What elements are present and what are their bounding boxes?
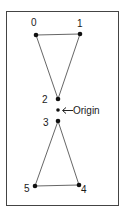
point-label-4: 4 xyxy=(81,184,87,195)
edge-0-1 xyxy=(36,34,80,35)
edge-3-4 xyxy=(58,121,79,185)
point-label-1: 1 xyxy=(77,18,83,29)
point-label-0: 0 xyxy=(31,17,37,28)
edge-2-0 xyxy=(36,35,58,99)
point-label-5: 5 xyxy=(24,183,30,194)
point-5 xyxy=(33,184,38,189)
origin-label: Origin xyxy=(73,105,100,116)
edge-4-5 xyxy=(35,185,79,186)
point-label-2: 2 xyxy=(42,94,48,105)
point-1 xyxy=(78,32,83,37)
point-0 xyxy=(34,33,39,38)
point-2 xyxy=(56,97,61,102)
arrow-left-icon xyxy=(63,108,74,114)
origin-point xyxy=(56,108,60,112)
point-label-3: 3 xyxy=(43,117,49,128)
triangle-diagram: 0 1 2 3 4 5 Origin xyxy=(0,0,125,214)
edge-5-3 xyxy=(35,121,58,186)
diagram-frame xyxy=(7,12,119,206)
point-3 xyxy=(56,119,61,124)
edge-1-2 xyxy=(58,34,80,99)
